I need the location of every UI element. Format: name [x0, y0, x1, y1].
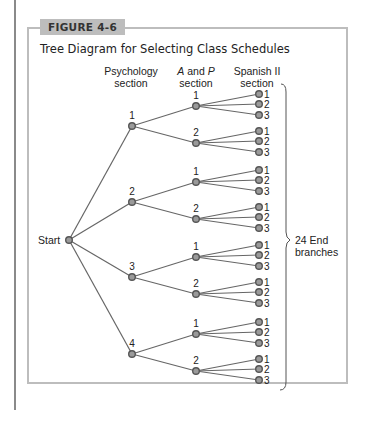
tree-edge — [196, 334, 259, 343]
spanish-node — [256, 188, 263, 195]
spanish-node — [256, 225, 263, 232]
ap-node — [193, 179, 200, 186]
spanish-section-label: 3 — [264, 223, 270, 234]
spanish-node — [256, 91, 263, 98]
ap-section-label: 2 — [193, 278, 199, 289]
spanish-section-label: 3 — [264, 338, 270, 349]
ap-node — [193, 368, 200, 375]
ap-section-label: 1 — [193, 90, 199, 101]
spanish-node — [256, 377, 263, 384]
tree-edge — [69, 126, 132, 240]
spanish-node — [256, 300, 263, 307]
spanish-section-label: 2 — [264, 175, 270, 186]
spanish-node — [256, 340, 263, 347]
tree-edge — [196, 257, 259, 266]
spanish-node — [256, 214, 263, 221]
spanish-section-label: 3 — [264, 261, 270, 272]
tree-edge — [132, 182, 196, 202]
spanish-section-label: 3 — [264, 186, 270, 197]
tree-edge — [196, 294, 259, 303]
header-spanish-line1: Spanish II — [234, 65, 281, 77]
ap-section-label: 1 — [193, 241, 199, 252]
spanish-node — [256, 329, 263, 336]
psychology-section-label: 1 — [129, 110, 135, 121]
spanish-node — [256, 279, 263, 286]
psychology-section-label: 4 — [129, 338, 135, 349]
brace-icon — [280, 84, 290, 390]
ap-node — [193, 103, 200, 110]
ap-node — [193, 140, 200, 147]
spanish-node — [256, 138, 263, 145]
spanish-node — [256, 289, 263, 296]
tree-edge — [132, 126, 196, 143]
spanish-section-label: 2 — [264, 327, 270, 338]
ap-section-label: 1 — [193, 318, 199, 329]
spanish-node — [256, 204, 263, 211]
spanish-node — [256, 263, 263, 270]
ap-node — [193, 331, 200, 338]
tree-edge — [69, 240, 132, 277]
spanish-node — [256, 112, 263, 119]
ap-node — [193, 216, 200, 223]
tree-edge — [132, 106, 196, 126]
spanish-section-label: 3 — [264, 147, 270, 158]
tree-edge — [69, 240, 132, 354]
tree-edge — [132, 354, 196, 371]
header-psychology-line1: Psychology — [104, 65, 158, 77]
spanish-section-label: 2 — [264, 136, 270, 147]
spanish-section-label: 3 — [264, 298, 270, 309]
ap-section-label: 2 — [193, 355, 199, 366]
spanish-section-label: 3 — [264, 110, 270, 121]
tree-edges — [69, 94, 259, 380]
spanish-section-label: 2 — [264, 250, 270, 261]
tree-edge — [132, 202, 196, 219]
header-spanish-line2: section — [240, 77, 273, 89]
spanish-section-label: 3 — [264, 375, 270, 386]
header-ap-line2: section — [179, 77, 212, 89]
psychology-section-label: 3 — [129, 261, 135, 272]
tree-edge — [132, 334, 196, 354]
tree-diagram: Psychology section A and P section Spani… — [0, 0, 365, 428]
column-headers: Psychology section A and P section Spani… — [104, 65, 280, 89]
header-psychology-line2: section — [114, 77, 147, 89]
psychology-node — [129, 199, 136, 206]
spanish-section-label: 2 — [264, 99, 270, 110]
ap-node — [193, 254, 200, 261]
psychology-node — [129, 351, 136, 358]
spanish-node — [256, 167, 263, 174]
summary-line1: 24 End — [295, 234, 328, 246]
spanish-section-label: 2 — [264, 287, 270, 298]
ap-section-label: 2 — [193, 203, 199, 214]
summary-line2: branches — [295, 246, 338, 258]
spanish-section-label: 2 — [264, 212, 270, 223]
spanish-node — [256, 252, 263, 259]
spanish-section-label: 2 — [264, 364, 270, 375]
start-label: Start — [38, 234, 60, 246]
header-ap-line1: A and P — [176, 65, 214, 77]
tree-edge — [196, 182, 259, 191]
spanish-node — [256, 356, 263, 363]
spanish-node — [256, 149, 263, 156]
tree-edge — [196, 143, 259, 152]
ap-node — [193, 291, 200, 298]
spanish-node — [256, 319, 263, 326]
tree-edge — [132, 257, 196, 277]
start-node — [66, 237, 73, 244]
psychology-section-label: 2 — [129, 186, 135, 197]
spanish-node — [256, 177, 263, 184]
psychology-node — [129, 123, 136, 130]
spanish-node — [256, 128, 263, 135]
psychology-node — [129, 274, 136, 281]
ap-section-label: 1 — [193, 166, 199, 177]
spanish-node — [256, 242, 263, 249]
tree-edge — [196, 219, 259, 228]
tree-edge — [69, 202, 132, 240]
spanish-node — [256, 101, 263, 108]
ap-section-label: 2 — [193, 127, 199, 138]
tree-edge — [132, 277, 196, 294]
spanish-node — [256, 366, 263, 373]
tree-edge — [196, 106, 259, 115]
tree-edge — [196, 371, 259, 380]
